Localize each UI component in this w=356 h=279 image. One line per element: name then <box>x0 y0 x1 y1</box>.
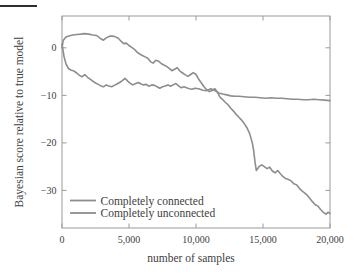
y-tick-label: −30 <box>41 185 57 196</box>
y-tick-label: 0 <box>52 42 57 53</box>
x-tick-label: 15,000 <box>249 234 277 245</box>
y-tick-label: −20 <box>41 137 57 148</box>
x-tick-label: 10,000 <box>182 234 210 245</box>
series-line-completely-connected <box>62 34 330 215</box>
y-tick-labels: 0−10−20−30 <box>41 42 57 196</box>
y-axis-label: Bayesian score relative to true model <box>13 37 26 208</box>
y-tick-label: −10 <box>41 90 57 101</box>
x-tick-label: 5,000 <box>118 234 141 245</box>
page-edge-artifact <box>0 5 37 7</box>
y-ticks <box>62 48 330 191</box>
series-line-completely-unconnected <box>62 44 330 101</box>
x-tick-label: 20,000 <box>316 234 344 245</box>
figure: 05,00010,00015,00020,000 0−10−20−30 numb… <box>0 0 356 279</box>
x-tick-labels: 05,00010,00015,00020,000 <box>60 234 344 245</box>
legend: Completely connected Completely unconnec… <box>70 195 215 221</box>
x-tick-label: 0 <box>60 234 65 245</box>
legend-label-connected: Completely connected <box>101 195 204 208</box>
legend-label-unconnected: Completely unconnected <box>101 207 216 220</box>
chart: 05,00010,00015,00020,000 0−10−20−30 numb… <box>0 0 356 279</box>
x-axis-label: number of samples <box>147 252 235 265</box>
